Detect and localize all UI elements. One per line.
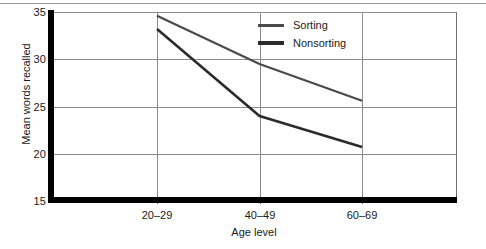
- x-axis-line: [48, 197, 457, 203]
- legend-item-sorting: Sorting: [258, 16, 378, 34]
- gridline-horizontal: [51, 107, 457, 108]
- x-axis-tick-label: 20–29: [117, 209, 197, 221]
- x-axis-tick-label: 40–49: [220, 209, 300, 221]
- gridline-horizontal: [51, 12, 457, 13]
- legend-swatch-nonsorting-icon: [258, 41, 284, 45]
- gridline-vertical: [157, 12, 158, 201]
- y-axis-line: [48, 10, 54, 203]
- legend-label-sorting: Sorting: [293, 19, 328, 31]
- y-axis-title: Mean words recalled: [20, 19, 32, 169]
- line-chart-figure: 3530252015 20–2940–4960–69 Mean words re…: [0, 0, 486, 249]
- gridline-horizontal: [51, 59, 457, 60]
- y-axis-tick-label: 35: [2, 7, 46, 18]
- chart-legend: Sorting Nonsorting: [258, 16, 378, 52]
- gridline-horizontal: [51, 154, 457, 155]
- legend-item-nonsorting: Nonsorting: [258, 34, 378, 52]
- legend-label-nonsorting: Nonsorting: [293, 37, 346, 49]
- x-axis-title: Age level: [51, 226, 457, 238]
- y-axis-tick-label: 15: [2, 196, 46, 207]
- legend-swatch-sorting-icon: [258, 24, 284, 27]
- x-axis-tick-label: 60–69: [322, 209, 402, 221]
